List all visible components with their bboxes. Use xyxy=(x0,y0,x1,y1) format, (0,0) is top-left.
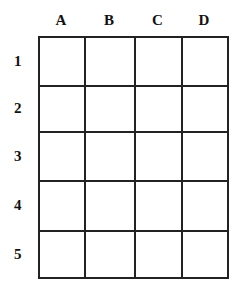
cell-a3 xyxy=(38,131,84,180)
cell-a5 xyxy=(38,230,84,277)
cell-b1 xyxy=(84,36,134,85)
cell-c1 xyxy=(134,36,181,85)
cell-d2 xyxy=(181,85,227,131)
grid-vertical-line xyxy=(84,36,86,279)
cell-d1 xyxy=(181,36,227,85)
cell-d4 xyxy=(181,180,227,230)
grid-vertical-line xyxy=(134,36,136,279)
cell-d3 xyxy=(181,131,227,180)
column-header-b: B xyxy=(104,12,114,29)
column-header-a: A xyxy=(56,12,67,29)
row-header-1: 1 xyxy=(14,52,22,69)
cell-b4 xyxy=(84,180,134,230)
cell-c2 xyxy=(134,85,181,131)
cell-a1 xyxy=(38,36,84,85)
cell-b2 xyxy=(84,85,134,131)
cell-a4 xyxy=(38,180,84,230)
row-header-3: 3 xyxy=(14,147,22,164)
cell-c4 xyxy=(134,180,181,230)
row-header-2: 2 xyxy=(14,100,22,117)
grid-vertical-line xyxy=(38,36,40,279)
grid-vertical-line xyxy=(181,36,183,279)
cell-a2 xyxy=(38,85,84,131)
cell-c5 xyxy=(134,230,181,277)
cell-c3 xyxy=(134,131,181,180)
cell-d5 xyxy=(181,230,227,277)
cell-b3 xyxy=(84,131,134,180)
column-header-d: D xyxy=(199,12,210,29)
row-header-4: 4 xyxy=(14,197,22,214)
cell-b5 xyxy=(84,230,134,277)
column-header-c: C xyxy=(152,12,163,29)
grid-vertical-line xyxy=(227,36,229,279)
row-header-5: 5 xyxy=(14,245,22,262)
